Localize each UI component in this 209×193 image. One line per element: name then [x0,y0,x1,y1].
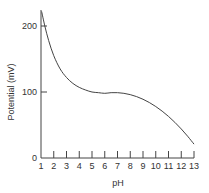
x-axis-label: pH [112,178,124,188]
y-axis-ticks: 0100200 [22,21,47,163]
x-tick-label: 4 [77,161,82,171]
y-tick-label: 0 [32,153,37,163]
x-tick-label: 5 [89,161,94,171]
x-tick-label: 8 [128,161,133,171]
x-tick-label: 11 [164,161,173,171]
x-tick-label: 3 [64,161,69,171]
y-axis-label: Potential (mV) [6,63,16,120]
chart-svg: 0100200 12345678910111213 pH Potential (… [0,0,209,193]
axes [41,10,194,158]
x-tick-label: 13 [189,161,199,171]
x-tick-label: 1 [38,161,43,171]
x-tick-label: 2 [51,161,56,171]
x-tick-label: 10 [151,161,161,171]
x-tick-label: 7 [115,161,120,171]
y-tick-label: 200 [22,21,37,31]
potential-ph-chart: 0100200 12345678910111213 pH Potential (… [0,0,209,193]
x-tick-label: 6 [102,161,107,171]
x-tick-label: 12 [176,161,186,171]
potential-curve [42,11,194,144]
y-tick-label: 100 [22,87,37,97]
x-axis-ticks: 12345678910111213 [38,151,199,171]
x-tick-label: 9 [140,161,145,171]
